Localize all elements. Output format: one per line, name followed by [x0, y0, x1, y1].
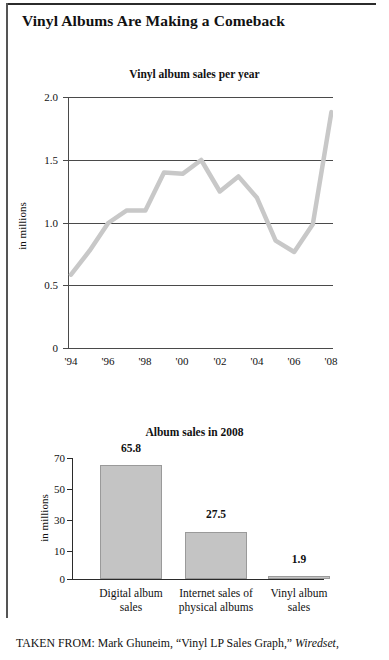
- bar-digital-album-sales: [100, 465, 162, 579]
- caption-source-title: Wiredset: [295, 636, 336, 650]
- bar-internet-physical-albums: [185, 532, 247, 580]
- bar-ytick-label-70: 70: [25, 452, 65, 464]
- bar-value-label-digital: 65.8: [96, 442, 166, 454]
- bar-vinyl-album-sales: [268, 576, 330, 579]
- line-ytick-label-0-5: 0.5: [18, 279, 58, 291]
- bar-ytick-label-0: 0: [25, 573, 65, 585]
- line-xtick-label-06: '06: [274, 355, 314, 367]
- line-ytick-label-1-5: 1.5: [18, 154, 58, 166]
- line-chart-series: [68, 97, 333, 349]
- line-xtick-label-94: '94: [51, 355, 91, 367]
- bar-tick-0: [67, 579, 72, 580]
- bar-category-line: Vinyl album: [249, 586, 349, 600]
- caption-suffix: ,: [336, 636, 339, 650]
- line-xtick-label-02: '02: [200, 355, 240, 367]
- line-xtick-label-04: '04: [237, 355, 277, 367]
- caption-prefix: TAKEN FROM: Mark Ghuneim, “Vinyl LP Sale…: [16, 636, 295, 650]
- line-chart-figure: Vinyl album sales per year in millions 2…: [0, 60, 389, 370]
- page-title: Vinyl Albums Are Making a Comeback: [22, 12, 285, 30]
- line-xtick-label-96: '96: [88, 355, 128, 367]
- line-chart-title: Vinyl album sales per year: [0, 68, 389, 80]
- line-ytick-label-1-0: 1.0: [18, 217, 58, 229]
- bar-chart-y-axis: [72, 458, 73, 580]
- source-caption: TAKEN FROM: Mark Ghuneim, “Vinyl LP Sale…: [16, 636, 376, 651]
- page-top-rule: [6, 3, 376, 5]
- bar-tick-10: [67, 551, 72, 552]
- bar-ytick-label-50: 50: [25, 483, 65, 495]
- bar-tick-30: [67, 520, 72, 521]
- bar-category-label-vinyl: Vinyl album sales: [249, 586, 349, 615]
- line-xtick-label-08: '08: [311, 355, 351, 367]
- bar-chart-figure: Album sales in 2008 in millions 70 50 30…: [0, 420, 389, 620]
- line-xtick-label-98: '98: [125, 355, 165, 367]
- bar-chart-x-axis: [72, 579, 324, 580]
- bar-tick-50: [67, 489, 72, 490]
- bar-ytick-label-10: 10: [25, 545, 65, 557]
- bar-ytick-label-30: 30: [25, 514, 65, 526]
- line-xtick-label-00: '00: [162, 355, 202, 367]
- bar-category-line: sales: [249, 600, 349, 614]
- bar-chart-title: Album sales in 2008: [0, 426, 389, 438]
- bar-value-label-internet: 27.5: [181, 508, 251, 520]
- line-ytick-label-2-0: 2.0: [18, 91, 58, 103]
- bar-value-label-vinyl: 1.9: [264, 553, 334, 565]
- bar-tick-70: [67, 458, 72, 459]
- line-ytick-label-0: 0: [18, 342, 58, 354]
